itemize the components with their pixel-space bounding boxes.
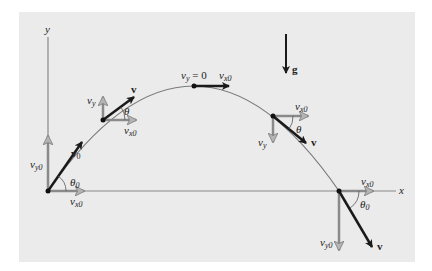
x-axis-label: x [398,184,404,196]
v-label: v [311,136,317,148]
v-label: v [131,83,137,95]
gravity-label: g [292,63,298,75]
v-label: v [377,240,383,252]
descending-dot [271,114,276,119]
landing-dot [337,189,342,194]
diagram-panel [19,12,415,262]
vy-zero-label: vy = 0 [181,69,207,83]
theta-label: θ [124,105,130,117]
apex-dot [192,84,197,89]
theta-label: θ [296,123,302,135]
launch-dot [46,189,51,194]
projectile-diagram: y x g v0 vy0 θ0 vx0 v vy θ vx0 vy = 0 vx [0,0,432,271]
y-axis-label: y [44,23,50,35]
rising-dot [101,118,106,123]
